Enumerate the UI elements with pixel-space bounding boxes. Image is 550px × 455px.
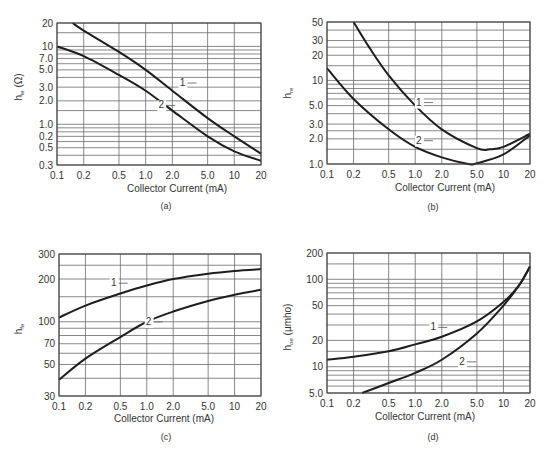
y-tick-label: 50 <box>44 359 56 370</box>
x-tick-label: 20 <box>524 398 536 409</box>
plot-border <box>57 23 261 165</box>
curve-label-2: 2 <box>459 356 465 367</box>
plot-frame <box>57 23 261 165</box>
y-axis-title: hoe (µmho) <box>282 304 294 351</box>
y-tick-label: 1.0 <box>309 159 323 170</box>
x-axis-tick-labels: 0.10.20.51.02.05.01020 <box>52 401 267 412</box>
x-tick-label: 10 <box>229 170 241 181</box>
curve-label-1: 1 <box>180 77 186 88</box>
series-2-curve <box>327 68 530 164</box>
curve-label-1: 1 <box>430 321 436 332</box>
x-tick-label: 0.1 <box>320 398 334 409</box>
x-tick-label: 5.0 <box>201 170 215 181</box>
x-axis-title: Collector Current (mA) <box>127 183 227 194</box>
chart-grid <box>57 23 261 165</box>
chart-grid <box>59 254 261 396</box>
y-tick-label: 2.0 <box>309 133 323 144</box>
panel-label: (d) <box>428 432 439 442</box>
y-tick-label: 1.0 <box>39 119 53 130</box>
x-axis-tick-labels: 0.10.20.51.02.05.01020 <box>320 398 536 409</box>
panel-label: (c) <box>161 432 172 442</box>
y-tick-label: 30 <box>44 391 56 402</box>
x-tick-label: 0.2 <box>78 401 92 412</box>
x-tick-label: 20 <box>255 401 267 412</box>
y-axis-tick-labels: 305070100200300 <box>38 249 55 402</box>
x-tick-label: 5.0 <box>470 398 484 409</box>
y-tick-label: 70 <box>44 338 56 349</box>
plot-border <box>59 254 261 396</box>
chart-panel-b: 1.02.03.05.010203050 0.10.20.51.02.05.01… <box>282 17 536 213</box>
y-tick-label: 10 <box>312 75 324 86</box>
curve-label-2: 2 <box>416 135 422 146</box>
x-tick-label: 0.5 <box>113 401 127 412</box>
x-tick-label: 1.0 <box>408 398 422 409</box>
series-1-curve <box>73 23 261 154</box>
curve-label-2: 2 <box>158 99 164 110</box>
y-tick-label: 300 <box>38 249 55 260</box>
series-2-curve <box>362 267 530 393</box>
x-tick-label: 1.0 <box>139 170 153 181</box>
y-tick-label: 10 <box>312 361 324 372</box>
y-tick-label: 50 <box>312 17 324 28</box>
chart-curves <box>327 267 530 393</box>
y-tick-label: 0.2 <box>39 131 53 142</box>
y-tick-label: 5.0 <box>309 100 323 111</box>
y-axis-title: hfe <box>13 323 25 334</box>
series-1-curve <box>59 269 261 318</box>
x-tick-label: 10 <box>229 401 241 412</box>
chart-grid <box>327 253 530 393</box>
x-tick-label: 0.2 <box>77 170 91 181</box>
chart-curves <box>57 23 261 161</box>
y-axis-tick-labels: 5.0102050100200 <box>306 248 323 399</box>
x-tick-label: 2.0 <box>435 398 449 409</box>
y-tick-label: 20 <box>312 50 324 61</box>
y-tick-label: 7.0 <box>39 53 53 64</box>
y-tick-label: 100 <box>306 274 323 285</box>
x-tick-label: 0.1 <box>52 401 66 412</box>
chart-grid <box>327 22 530 164</box>
y-tick-label: 2.0 <box>39 95 53 106</box>
curve-labels: 12 <box>110 277 163 328</box>
x-axis-title: Collector Current (mA) <box>395 182 495 193</box>
y-tick-label: 100 <box>38 316 55 327</box>
curve-labels: 12 <box>429 321 476 367</box>
curve-label-1: 1 <box>416 97 422 108</box>
chart-panel-c: 305070100200300 0.10.20.51.02.05.01020 1… <box>13 249 267 443</box>
y-axis-title: hie (Ω) <box>13 73 25 100</box>
x-tick-label: 5.0 <box>201 401 215 412</box>
x-tick-label: 0.2 <box>347 398 361 409</box>
x-tick-label: 1.0 <box>408 169 422 180</box>
figure-four-panel-charts: 0.30.50.21.02.03.05.07.01020 0.10.20.51.… <box>0 0 550 455</box>
x-tick-label: 2.0 <box>166 401 180 412</box>
series-1-curve <box>327 267 530 360</box>
x-tick-label: 20 <box>524 169 536 180</box>
x-axis-title: Collector Current (mA) <box>375 411 475 422</box>
x-tick-label: 0.5 <box>112 170 126 181</box>
chart-curves <box>59 269 261 380</box>
chart-panel-d: 5.0102050100200 0.10.20.51.02.05.01020 1… <box>282 248 536 443</box>
plot-frame <box>59 254 261 396</box>
y-axis-tick-labels: 1.02.03.05.010203050 <box>309 17 323 170</box>
y-tick-label: 200 <box>306 248 323 259</box>
x-tick-label: 20 <box>255 170 267 181</box>
plot-border <box>327 253 530 393</box>
panel-label: (b) <box>428 202 439 212</box>
chart-panel-a: 0.30.50.21.02.03.05.07.01020 0.10.20.51.… <box>13 18 267 212</box>
x-tick-label: 10 <box>498 398 510 409</box>
curve-label-1: 1 <box>111 277 117 288</box>
panel-label: (a) <box>161 201 172 211</box>
y-tick-label: 0.5 <box>39 142 53 153</box>
y-tick-label: 50 <box>312 300 324 311</box>
y-tick-label: 20 <box>42 18 54 29</box>
x-tick-label: 0.1 <box>50 170 64 181</box>
x-tick-label: 10 <box>498 169 510 180</box>
y-tick-label: 20 <box>312 335 324 346</box>
y-tick-label: 0.3 <box>39 160 53 171</box>
y-axis-tick-labels: 0.30.50.21.02.03.05.07.01020 <box>39 18 53 171</box>
x-axis-tick-labels: 0.10.20.51.02.05.01020 <box>50 170 267 181</box>
y-axis-title: hre <box>282 87 294 99</box>
x-tick-label: 2.0 <box>165 170 179 181</box>
x-axis-title: Collector Current (mA) <box>114 413 214 424</box>
curve-label-2: 2 <box>146 316 152 327</box>
x-axis-tick-labels: 0.10.20.51.02.05.01020 <box>320 169 536 180</box>
